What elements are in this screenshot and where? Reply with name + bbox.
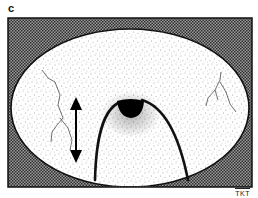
artist-signature: TKT [235, 188, 250, 198]
figure-illustration [0, 0, 258, 198]
